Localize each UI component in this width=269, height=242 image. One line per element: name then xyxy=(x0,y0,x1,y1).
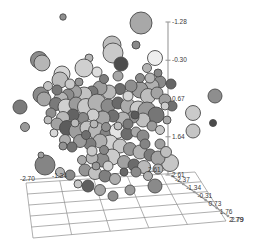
bubble-chart-3d: -1.28-0.300.671.642.61-2.37-1.34-0.310.7… xyxy=(0,0,269,242)
svg-text:2.61: 2.61 xyxy=(148,166,161,173)
svg-text:0.73: 0.73 xyxy=(209,200,222,207)
floor-grid xyxy=(26,172,226,238)
svg-text:-1.28: -1.28 xyxy=(172,18,187,25)
bubble-series xyxy=(13,12,222,201)
svg-text:-2.70: -2.70 xyxy=(20,175,35,182)
svg-text:-1.34: -1.34 xyxy=(186,184,201,191)
svg-text:1.64: 1.64 xyxy=(172,133,185,140)
svg-text:-2.37: -2.37 xyxy=(175,176,190,183)
svg-text:-0.30: -0.30 xyxy=(172,56,187,63)
svg-text:0.67: 0.67 xyxy=(172,95,185,102)
svg-text:2.79: 2.79 xyxy=(229,215,244,224)
svg-text:-1.34: -1.34 xyxy=(52,172,67,179)
chart-canvas: -1.28-0.300.671.642.61-2.37-1.34-0.310.7… xyxy=(0,0,269,242)
svg-text:-0.31: -0.31 xyxy=(197,192,212,199)
svg-text:1.76: 1.76 xyxy=(220,208,233,215)
